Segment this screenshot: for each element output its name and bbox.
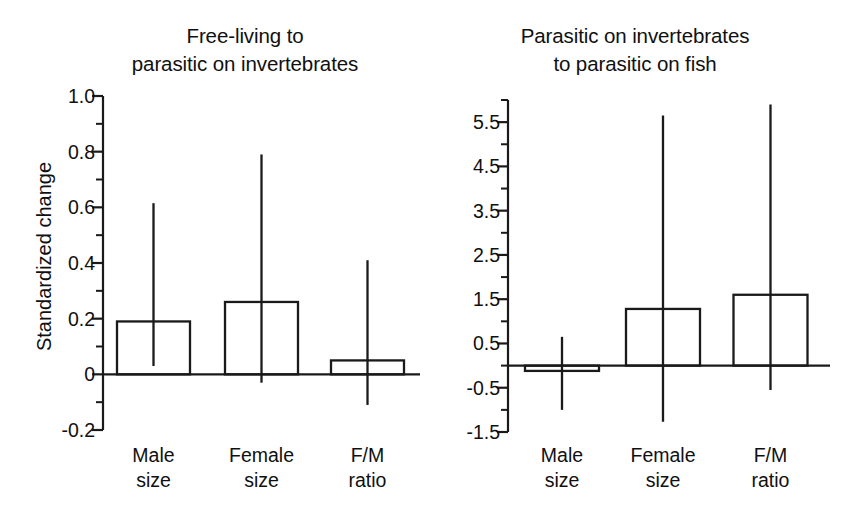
x-category-label: size <box>545 469 580 491</box>
bar-group <box>734 104 808 390</box>
x-category-label: Male <box>132 444 174 466</box>
y-tick-label: 0.2 <box>68 308 95 330</box>
x-category-label: Female <box>630 444 695 466</box>
plot-area-left: 1.00.80.60.40.20-0.2MalesizeFemalesizeF/… <box>0 0 430 507</box>
bar-group <box>117 203 190 374</box>
bar-group <box>225 154 298 382</box>
y-tick-label: 5.5 <box>473 111 500 133</box>
y-tick-label: 4.5 <box>473 155 500 177</box>
y-tick-label: 0.6 <box>68 196 95 218</box>
y-tick-label: 1.0 <box>68 85 95 107</box>
chart-panel-right: Parasitic on invertebrates to parasitic … <box>430 0 843 507</box>
x-category-label: ratio <box>752 469 790 491</box>
chart-panel-left: Free-living to parasitic on invertebrate… <box>0 0 430 507</box>
figure-container: Free-living to parasitic on invertebrate… <box>0 0 843 507</box>
x-category-label: size <box>646 469 681 491</box>
bar-group <box>626 115 700 421</box>
x-category-label: Female <box>229 444 294 466</box>
y-tick-label: -0.5 <box>466 377 500 399</box>
y-tick-label: 3.5 <box>473 200 500 222</box>
y-tick-label: 0.4 <box>68 252 95 274</box>
y-tick-label: -1.5 <box>466 421 500 443</box>
x-category-label: size <box>136 469 171 491</box>
y-tick-label: 0.5 <box>473 332 500 354</box>
x-category-label: F/M <box>351 444 385 466</box>
y-tick-label: 0 <box>84 363 95 385</box>
x-category-label: F/M <box>754 444 788 466</box>
x-category-label: size <box>244 469 279 491</box>
y-tick-label: 0.8 <box>68 141 95 163</box>
y-tick-label: 2.5 <box>473 244 500 266</box>
x-category-label: ratio <box>349 469 387 491</box>
plot-area-right: 5.54.53.52.51.50.5-0.5-1.5MalesizeFemale… <box>430 0 843 507</box>
bar-group <box>331 260 404 405</box>
y-tick-label: -0.2 <box>61 419 95 441</box>
x-category-label: Male <box>541 444 583 466</box>
y-tick-label: 1.5 <box>473 288 500 310</box>
bar-group <box>525 337 599 410</box>
